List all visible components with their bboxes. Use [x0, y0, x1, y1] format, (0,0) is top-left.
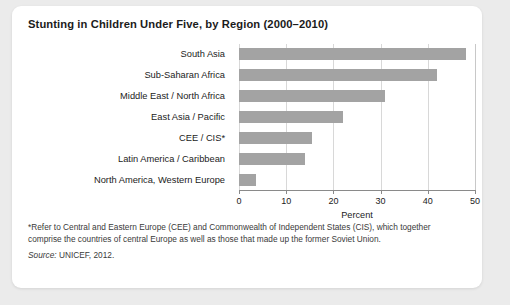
bar-4 [239, 132, 312, 144]
source-value: UNICEF, 2012. [57, 250, 115, 260]
category-label-0: South Asia [181, 49, 225, 59]
x-tick-50 [475, 190, 476, 194]
bar-0 [239, 48, 466, 60]
x-tick-10 [286, 190, 287, 194]
chart-card: Stunting in Children Under Five, by Regi… [12, 6, 482, 288]
bars-region [239, 44, 475, 190]
bar-3 [239, 111, 343, 123]
x-tick-40 [428, 190, 429, 194]
gridline-30 [381, 44, 382, 190]
category-label-1: Sub-Saharan Africa [144, 70, 225, 80]
x-tick-label-10: 10 [281, 196, 291, 206]
x-tick-label-20: 20 [328, 196, 338, 206]
bar-5 [239, 153, 305, 165]
chart-plot-area: South AsiaSub-Saharan AfricaMiddle East … [28, 44, 466, 194]
chart-footnote: *Refer to Central and Eastern Europe (CE… [28, 222, 466, 245]
chart-source: Source: UNICEF, 2012. [28, 250, 114, 260]
gridline-50 [475, 44, 476, 190]
x-tick-20 [333, 190, 334, 194]
category-label-5: Latin America / Caribbean [118, 154, 225, 164]
category-label-6: North America, Western Europe [94, 175, 225, 185]
category-label-3: East Asia / Pacific [151, 112, 225, 122]
x-tick-label-40: 40 [423, 196, 433, 206]
x-tick-0 [239, 190, 240, 194]
category-label-4: CEE / CIS* [179, 133, 225, 143]
bar-6 [239, 174, 256, 186]
x-tick-label-0: 0 [236, 196, 241, 206]
gridline-40 [428, 44, 429, 190]
category-label-2: Middle East / North Africa [120, 91, 225, 101]
x-axis-title: Percent [341, 210, 373, 220]
category-axis-labels: South AsiaSub-Saharan AfricaMiddle East … [28, 44, 231, 190]
x-tick-label-30: 30 [376, 196, 386, 206]
x-tick-label-50: 50 [470, 196, 480, 206]
source-label: Source: [28, 250, 57, 260]
chart-title: Stunting in Children Under Five, by Regi… [28, 18, 328, 30]
bar-1 [239, 69, 437, 81]
bar-2 [239, 90, 385, 102]
x-tick-30 [381, 190, 382, 194]
x-axis-line [239, 190, 475, 191]
